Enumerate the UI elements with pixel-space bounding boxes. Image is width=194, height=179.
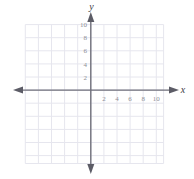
x-axis-label: x <box>180 84 186 95</box>
y-tick-label-4: 4 <box>84 61 88 69</box>
y-axis-label: y <box>88 1 94 12</box>
y-axis-top-arrowhead <box>87 12 94 22</box>
x-tick-label-8: 8 <box>141 95 145 103</box>
y-axis <box>87 12 94 174</box>
x-tick-labels: 2 4 6 8 10 <box>102 95 160 103</box>
coordinate-plane-svg: 2 4 6 8 10 2 4 6 8 10 x y <box>0 0 194 179</box>
y-axis-bottom-arrowhead <box>87 164 94 174</box>
y-tick-label-8: 8 <box>84 34 88 42</box>
coordinate-plane-figure: 2 4 6 8 10 2 4 6 8 10 x y <box>0 0 194 179</box>
y-tick-label-10: 10 <box>80 21 88 29</box>
y-tick-labels: 2 4 6 8 10 <box>80 21 88 81</box>
x-tick-label-10: 10 <box>153 95 161 103</box>
x-tick-label-6: 6 <box>128 95 132 103</box>
x-tick-label-4: 4 <box>115 95 119 103</box>
x-axis-right-arrowhead <box>169 87 179 94</box>
x-tick-label-2: 2 <box>102 95 106 103</box>
y-tick-label-2: 2 <box>84 74 88 82</box>
x-axis-left-arrowhead <box>13 87 23 94</box>
y-tick-label-6: 6 <box>84 47 88 55</box>
